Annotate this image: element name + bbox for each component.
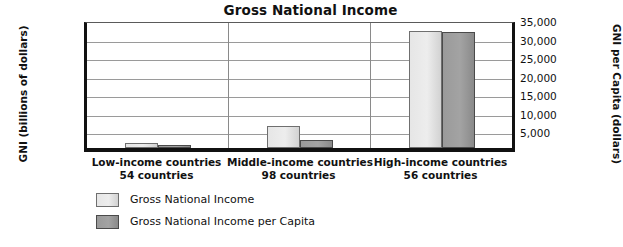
category-label-low-income: Low-income countries 54 countries — [85, 156, 228, 182]
y-tick-right-30000: 30,000 — [520, 36, 580, 47]
y-tick-right-25000: 25,000 — [520, 54, 580, 65]
y-tick-right-15000: 15,000 — [520, 91, 580, 102]
legend-item-gni-per-capita: Gross National Income per Capita — [96, 212, 315, 231]
category-label-high-income: High-income countries 56 countries — [369, 156, 512, 182]
bar-high-income-gni — [409, 31, 442, 148]
category-label-high-income-count: 56 countries — [369, 169, 512, 182]
y-tick-right-20000: 20,000 — [520, 73, 580, 84]
category-label-low-income-count: 54 countries — [85, 169, 228, 182]
bar-high-income-gni-per-capita — [442, 32, 475, 148]
y-axis-title-left: GNI (billions of dollars) — [17, 19, 29, 169]
legend-label-gni-per-capita: Gross National Income per Capita — [130, 215, 315, 228]
chart-legend: Gross National Income Gross National Inc… — [96, 190, 315, 234]
bar-middle-income-gni — [267, 126, 300, 148]
bar-low-income-gni-per-capita — [158, 145, 191, 148]
category-label-high-income-name: High-income countries — [374, 156, 508, 168]
plot-area — [84, 22, 515, 152]
category-label-middle-income-name: Middle-income countries — [227, 156, 373, 168]
bar-middle-income-gni-per-capita — [300, 140, 333, 148]
category-separator-2 — [370, 23, 371, 148]
legend-swatch-gni-per-capita-icon — [96, 215, 119, 229]
y-tick-right-35000: 35,000 — [520, 17, 580, 28]
category-label-middle-income-count: 98 countries — [227, 169, 370, 182]
category-separator-1 — [228, 23, 229, 148]
y-axis-title-right: GNI per Capita (dollars) — [611, 19, 623, 169]
category-label-low-income-name: Low-income countries — [92, 156, 222, 168]
legend-item-gni: Gross National Income — [96, 190, 315, 209]
legend-swatch-gni-icon — [96, 193, 119, 207]
bar-low-income-gni — [125, 143, 158, 148]
legend-label-gni: Gross National Income — [130, 193, 254, 206]
y-tick-right-5000: 5,000 — [520, 128, 580, 139]
y-tick-right-10000: 10,000 — [520, 110, 580, 121]
category-label-middle-income: Middle-income countries 98 countries — [227, 156, 370, 182]
